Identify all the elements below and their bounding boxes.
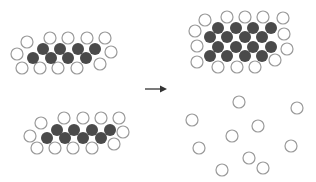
empty-circle-icon — [21, 36, 33, 48]
filled-circle-icon — [45, 52, 57, 64]
filled-circle-icon — [27, 52, 39, 64]
empty-circle-icon — [58, 112, 70, 124]
empty-circle-icon — [277, 12, 289, 24]
arrow-head-icon — [160, 86, 167, 93]
filled-circle-icon — [230, 41, 242, 53]
filled-circle-icon — [256, 50, 268, 62]
empty-circle-icon — [249, 61, 261, 73]
empty-circle-icon — [186, 114, 198, 126]
filled-circle-icon — [59, 132, 71, 144]
empty-circle-icon — [34, 62, 46, 74]
empty-circle-icon — [199, 14, 211, 26]
filled-circle-icon — [204, 50, 216, 62]
empty-circle-icon — [189, 25, 201, 37]
empty-circle-icon — [52, 62, 64, 74]
top-right-cluster — [189, 11, 293, 73]
empty-circle-icon — [113, 112, 125, 124]
filled-circle-icon — [62, 52, 74, 64]
empty-circle-icon — [231, 61, 243, 73]
transition-arrow-icon — [145, 86, 167, 93]
filled-circle-icon — [72, 43, 84, 55]
empty-circle-icon — [243, 152, 255, 164]
empty-circle-icon — [71, 62, 83, 74]
empty-circle-icon — [81, 32, 93, 44]
filled-circle-icon — [247, 41, 259, 53]
empty-circle-icon — [191, 40, 203, 52]
empty-circle-icon — [62, 32, 74, 44]
empty-circle-icon — [77, 112, 89, 124]
filled-circle-icon — [221, 31, 233, 43]
empty-circle-icon — [67, 142, 79, 154]
empty-circle-icon — [257, 11, 269, 23]
empty-circle-icon — [281, 43, 293, 55]
empty-circle-icon — [191, 56, 203, 68]
empty-circle-icon — [291, 102, 303, 114]
filled-circle-icon — [265, 41, 277, 53]
empty-circle-icon — [278, 28, 290, 40]
empty-circle-icon — [252, 120, 264, 132]
filled-circle-icon — [265, 22, 277, 34]
empty-circle-icon — [86, 142, 98, 154]
empty-circle-icon — [44, 32, 56, 44]
filled-circle-icon — [41, 132, 53, 144]
filled-circle-icon — [80, 52, 92, 64]
filled-circle-icon — [37, 43, 49, 55]
empty-circle-icon — [257, 162, 269, 174]
empty-circle-icon — [95, 112, 107, 124]
filled-circle-icon — [104, 124, 116, 136]
bottom-left-cluster — [24, 112, 129, 154]
filled-circle-icon — [230, 22, 242, 34]
filled-circle-icon — [204, 31, 216, 43]
empty-circle-icon — [16, 62, 28, 74]
filled-circle-icon — [95, 132, 107, 144]
empty-circle-icon — [35, 117, 47, 129]
filled-circle-icon — [247, 22, 259, 34]
filled-circle-icon — [86, 124, 98, 136]
particle-cluster-diagram — [0, 0, 316, 182]
empty-circle-icon — [212, 61, 224, 73]
filled-circle-icon — [212, 41, 224, 53]
empty-circle-icon — [94, 58, 106, 70]
filled-circle-icon — [239, 31, 251, 43]
bottom-right-scattered — [186, 96, 303, 176]
empty-circle-icon — [233, 96, 245, 108]
empty-circle-icon — [105, 46, 117, 58]
empty-circle-icon — [99, 32, 111, 44]
filled-circle-icon — [256, 31, 268, 43]
empty-circle-icon — [49, 142, 61, 154]
filled-circle-icon — [89, 43, 101, 55]
diagram-canvas — [0, 0, 316, 182]
filled-circle-icon — [54, 43, 66, 55]
empty-circle-icon — [193, 142, 205, 154]
empty-circle-icon — [11, 48, 23, 60]
filled-circle-icon — [68, 124, 80, 136]
empty-circle-icon — [216, 164, 228, 176]
filled-circle-icon — [77, 132, 89, 144]
empty-circle-icon — [24, 130, 36, 142]
empty-circle-icon — [285, 140, 297, 152]
circle-groups — [11, 11, 303, 176]
top-left-cluster — [11, 32, 117, 74]
empty-circle-icon — [31, 142, 43, 154]
empty-circle-icon — [239, 11, 251, 23]
filled-circle-icon — [212, 22, 224, 34]
empty-circle-icon — [108, 138, 120, 150]
empty-circle-icon — [226, 130, 238, 142]
filled-circle-icon — [221, 50, 233, 62]
filled-circle-icon — [239, 50, 251, 62]
empty-circle-icon — [269, 54, 281, 66]
empty-circle-icon — [117, 126, 129, 138]
empty-circle-icon — [221, 11, 233, 23]
